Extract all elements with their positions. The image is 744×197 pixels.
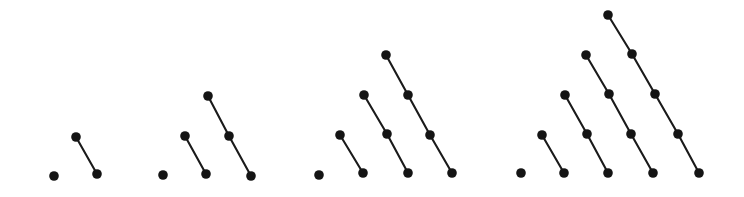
- chain-node: [627, 49, 637, 59]
- chain-node: [246, 171, 256, 181]
- chain-node: [447, 168, 457, 178]
- chain-node: [382, 129, 392, 139]
- chain-node: [403, 168, 413, 178]
- chain-node: [582, 129, 592, 139]
- group-4-chain-len-1: [516, 168, 526, 178]
- chain-node: [381, 50, 391, 60]
- chain-node: [158, 170, 168, 180]
- chain-node: [224, 131, 234, 141]
- chain-node: [603, 10, 613, 20]
- chain-node: [425, 130, 435, 140]
- chain-node: [180, 131, 190, 141]
- chain-node: [92, 169, 102, 179]
- chain-node: [335, 130, 345, 140]
- chain-diagram-svg: [0, 0, 744, 197]
- chain-node: [648, 168, 658, 178]
- chain-node: [314, 170, 324, 180]
- chain-node: [559, 168, 569, 178]
- chain-node: [201, 169, 211, 179]
- group-3-chain-len-1: [314, 170, 324, 180]
- chain-node: [71, 132, 81, 142]
- chain-node: [537, 130, 547, 140]
- chain-node: [650, 89, 660, 99]
- chain-node: [358, 168, 368, 178]
- figure-canvas: [0, 0, 744, 197]
- chain-node: [581, 50, 591, 60]
- chain-node: [359, 90, 369, 100]
- chain-node: [604, 89, 614, 99]
- chain-node: [626, 129, 636, 139]
- chain-node: [694, 168, 704, 178]
- chain-node: [560, 90, 570, 100]
- group-2-chain-len-1: [158, 170, 168, 180]
- chain-node: [403, 90, 413, 100]
- group-1-chain-len-1: [49, 171, 59, 181]
- chain-node: [516, 168, 526, 178]
- figure-background: [0, 0, 744, 197]
- chain-node: [673, 129, 683, 139]
- chain-node: [49, 171, 59, 181]
- chain-node: [603, 168, 613, 178]
- chain-node: [203, 91, 213, 101]
